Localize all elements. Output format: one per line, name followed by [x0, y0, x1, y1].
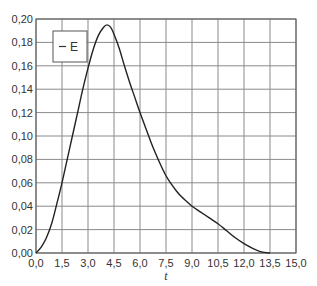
- x-tick-label: 3,0: [80, 257, 95, 269]
- y-tick-label: 0,12: [12, 107, 33, 119]
- x-axis-title: t: [164, 269, 168, 283]
- y-tick-label: 0,20: [12, 13, 33, 25]
- y-tick-label: 0,08: [12, 153, 33, 165]
- y-tick-label: 0,18: [12, 36, 33, 48]
- legend-label-e: E: [70, 40, 78, 54]
- x-tick-label: 10,5: [207, 257, 228, 269]
- x-tick-label: 15,0: [285, 257, 306, 269]
- y-tick-label: 0,06: [12, 177, 33, 189]
- x-axis-ticks: 0,01,53,04,56,07,59,010,512,013,515,0: [28, 257, 306, 269]
- x-tick-label: 1,5: [54, 257, 69, 269]
- y-tick-label: 0,10: [12, 130, 33, 142]
- y-tick-label: 0,04: [12, 200, 33, 212]
- y-axis-ticks: 0,000,020,040,060,080,100,120,140,160,18…: [12, 13, 33, 259]
- x-tick-label: 6,0: [132, 257, 147, 269]
- y-tick-label: 0,16: [12, 60, 33, 72]
- y-tick-label: 0,02: [12, 224, 33, 236]
- x-tick-label: 0,0: [28, 257, 43, 269]
- y-tick-label: 0,14: [12, 83, 33, 95]
- x-tick-label: 4,5: [106, 257, 121, 269]
- x-tick-label: 9,0: [184, 257, 199, 269]
- x-tick-label: 7,5: [158, 257, 173, 269]
- line-chart: 0,000,020,040,060,080,100,120,140,160,18…: [0, 0, 317, 286]
- x-tick-label: 12,0: [233, 257, 254, 269]
- legend: E: [53, 31, 87, 62]
- x-tick-label: 13,5: [259, 257, 280, 269]
